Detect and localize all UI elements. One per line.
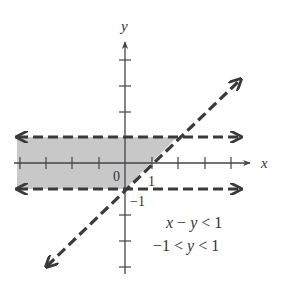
x-tick-label-1: 1 [148, 174, 155, 189]
y-axis-label: y [119, 18, 128, 34]
x-axis-label: x [260, 155, 268, 171]
inequality-1: x − y < 1 [165, 214, 222, 232]
y-tick-label-neg1: −1 [130, 194, 145, 209]
inequality-2: −1 < y < 1 [153, 237, 219, 255]
inequality-graph: y x 0 1 −1 x − y < 1 −1 < y < 1 [0, 0, 284, 292]
origin-label: 0 [113, 169, 120, 184]
